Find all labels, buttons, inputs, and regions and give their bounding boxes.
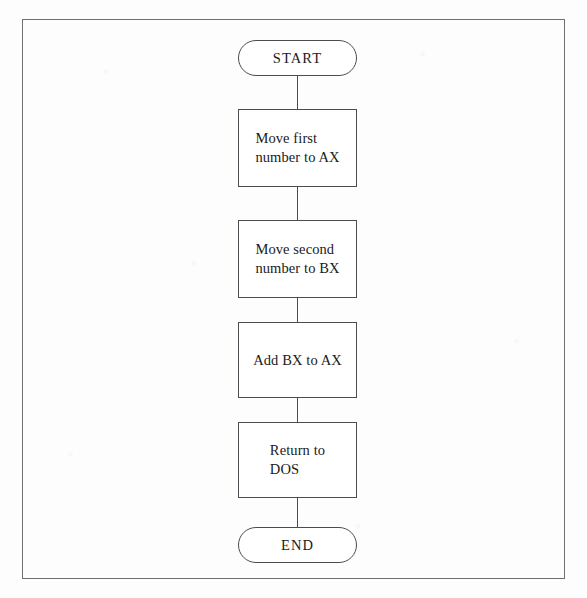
flowchart-page: START Move first number to AX Move secon… [0, 0, 587, 598]
connector-step1-to-step2 [297, 186, 298, 220]
connector-step4-to-end [297, 497, 298, 527]
node-return-to-dos-label: Return to DOS [270, 441, 325, 479]
node-move-first-number-to-ax-label: Move first number to AX [255, 129, 339, 167]
connector-step3-to-step4 [297, 397, 298, 423]
node-move-first-number-to-ax[interactable]: Move first number to AX [238, 109, 357, 187]
node-end-label: END [281, 536, 314, 555]
connector-step2-to-step3 [297, 297, 298, 323]
node-add-bx-to-ax-label: Add BX to AX [253, 351, 342, 370]
node-start[interactable]: START [238, 40, 357, 76]
node-return-to-dos[interactable]: Return to DOS [238, 422, 357, 498]
node-move-second-number-to-bx[interactable]: Move second number to BX [238, 220, 357, 298]
node-move-second-number-to-bx-label: Move second number to BX [255, 240, 339, 278]
connector-start-to-step1 [297, 75, 298, 110]
node-end[interactable]: END [238, 527, 357, 563]
node-add-bx-to-ax[interactable]: Add BX to AX [238, 322, 357, 398]
node-start-label: START [273, 49, 322, 68]
